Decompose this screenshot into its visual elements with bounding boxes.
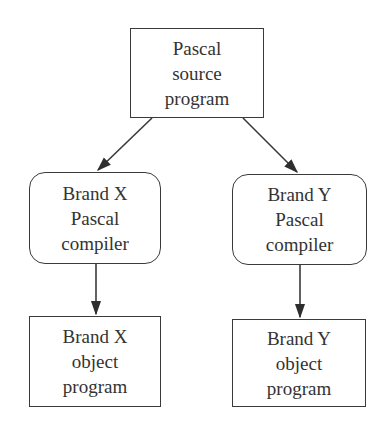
node-label-line: Pascal — [173, 36, 222, 61]
node-brand-y-compiler: Brand Y Pascal compiler — [232, 174, 367, 265]
node-label-line: program — [63, 374, 127, 399]
node-label-line: Pascal — [71, 206, 120, 231]
node-label-line: Brand X — [63, 324, 128, 349]
node-label-line: Brand X — [63, 181, 128, 206]
node-label-line: program — [267, 376, 331, 401]
node-label-line: Brand Y — [267, 326, 331, 351]
node-label-line: source — [172, 61, 222, 86]
node-pascal-source-program: Pascal source program — [130, 28, 264, 118]
node-brand-y-object-program: Brand Y object program — [232, 319, 366, 407]
node-brand-x-object-program: Brand X object program — [29, 316, 161, 407]
node-label-line: compiler — [266, 232, 334, 257]
node-label-line: compiler — [61, 231, 129, 256]
node-label-line: object — [72, 349, 118, 374]
edge-source-to-compiler-x — [98, 118, 152, 170]
node-label-line: object — [276, 351, 322, 376]
node-label-line: Brand Y — [267, 182, 331, 207]
node-label-line: program — [165, 86, 229, 111]
node-label-line: Pascal — [275, 207, 324, 232]
edge-source-to-compiler-y — [243, 118, 297, 172]
node-brand-x-compiler: Brand X Pascal compiler — [29, 172, 161, 264]
